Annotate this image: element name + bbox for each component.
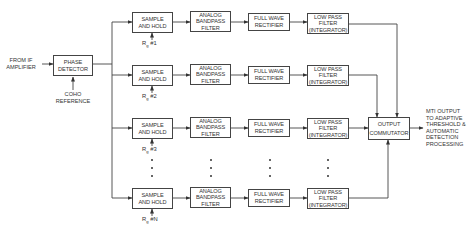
ellipsis-dot (269, 159, 271, 161)
ellipsis-dot (327, 159, 329, 161)
rectifier-block-2: FULL WAVERECTIFIER (248, 66, 290, 84)
sh-text: AND HOLD (138, 23, 166, 30)
sample-hold-block-3: SAMPLEAND HOLD (132, 118, 173, 139)
range-gate-label-2: Rg #2 (142, 93, 157, 101)
bandpass-filter-block-2: ANALOGBANDPASSFILTER (190, 64, 231, 85)
bandpass-filter-block-1: ANALOGBANDPASSFILTER (190, 11, 231, 32)
ellipsis-dot (269, 175, 271, 177)
range-gate-label-3: Rg #3 (142, 146, 157, 154)
coho-line-1: COHO (52, 91, 94, 98)
phase-detector-block: PHASE DETECTOR (53, 55, 93, 76)
input-line-1: FROM IF (0, 57, 42, 64)
range-gate-label-1: Rg #1 (142, 40, 157, 48)
bandpass-filter-block-n: ANALOGBANDPASSFILTER (190, 187, 231, 208)
coho-reference-label: COHO REFERENCE (52, 91, 94, 104)
rectifier-block-1: FULL WAVERECTIFIER (248, 13, 290, 31)
bandpass-filter-block-3: ANALOGBANDPASSFILTER (190, 117, 231, 138)
input-line-2: AMPLIFIER (0, 64, 42, 71)
lowpass-filter-block-1: LOW PASSFILTER(INTEGRATOR) (307, 13, 349, 34)
input-if-amplifier-label: FROM IF AMPLIFIER (0, 57, 42, 70)
sh-text: SAMPLE (141, 16, 163, 23)
output-commutator-block: OUTPUTCOMMUTATOR (368, 117, 410, 140)
ellipsis-dot (210, 175, 212, 177)
ellipsis-dot (151, 175, 153, 177)
ellipsis-dot (327, 167, 329, 169)
phase-detector-line-2: DETECTOR (58, 66, 88, 73)
ellipsis-dot (151, 159, 153, 161)
sample-hold-block-1: SAMPLE AND HOLD (132, 12, 173, 33)
coho-line-2: REFERENCE (52, 98, 94, 105)
phase-detector-line-1: PHASE (64, 59, 82, 66)
ellipsis-dot (269, 167, 271, 169)
lowpass-filter-block-2: LOW PASSFILTER(INTEGRATOR) (307, 65, 349, 86)
sample-hold-block-2: SAMPLEAND HOLD (132, 65, 173, 86)
sample-hold-block-n: SAMPLEAND HOLD (132, 188, 173, 209)
lowpass-filter-block-3: LOW PASSFILTER(INTEGRATOR) (307, 118, 349, 139)
rectifier-block-3: FULL WAVERECTIFIER (248, 119, 290, 137)
rectifier-block-n: FULL WAVERECTIFIER (248, 189, 290, 207)
ellipsis-dot (210, 159, 212, 161)
mti-output-label: MTI OUTPUTTO ADAPTIVETHRESHOLD & AUTOMAT… (426, 108, 466, 148)
ellipsis-dot (151, 167, 153, 169)
lowpass-filter-block-n: LOW PASSFILTER(INTEGRATOR) (307, 188, 349, 209)
ellipsis-dot (210, 167, 212, 169)
range-gate-label-n: Rg #N (142, 216, 158, 224)
ellipsis-dot (327, 175, 329, 177)
